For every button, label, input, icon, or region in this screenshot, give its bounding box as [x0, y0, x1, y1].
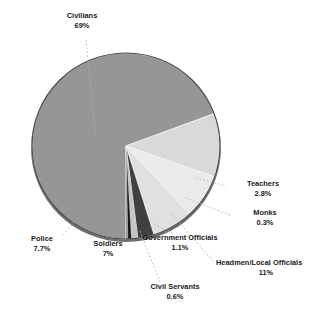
- slice-label-police-name: Police: [20, 234, 64, 244]
- slice-label-headmen-pct: 11%: [216, 268, 316, 278]
- slice-label-government-officials: Government Officials 1.1%: [134, 233, 226, 253]
- slice-label-soldiers: Soldiers 7%: [86, 239, 130, 259]
- slice-label-civilians: Civilians 69%: [46, 11, 118, 31]
- slice-label-civil-servants-pct: 0.6%: [136, 292, 214, 302]
- slice-label-headmen-name: Headmen/Local Officials: [216, 258, 324, 268]
- slice-label-police-pct: 7.7%: [20, 244, 64, 254]
- slice-label-monks-name: Monks: [236, 208, 294, 218]
- slice-label-police: Police 7.7%: [20, 234, 64, 254]
- slice-label-soldiers-pct: 7%: [86, 249, 130, 259]
- slice-label-civil-servants-name: Civil Servants: [136, 282, 214, 292]
- slice-label-government-name: Government Officials: [134, 233, 226, 243]
- slice-label-soldiers-name: Soldiers: [86, 239, 130, 249]
- slice-label-teachers-name: Teachers: [232, 179, 294, 189]
- slice-label-teachers-pct: 2.8%: [232, 189, 294, 199]
- slice-label-monks: Monks 0.3%: [236, 208, 294, 228]
- pie-chart-figure: Civilians 69% Teachers 2.8% Monks 0.3% H…: [0, 0, 325, 309]
- slice-label-civil-servants: Civil Servants 0.6%: [136, 282, 214, 302]
- slice-label-government-pct: 1.1%: [134, 243, 226, 253]
- slice-label-teachers: Teachers 2.8%: [232, 179, 294, 199]
- slice-label-civilians-name: Civilians: [46, 11, 118, 21]
- slice-label-monks-pct: 0.3%: [236, 218, 294, 228]
- slice-label-civilians-pct: 69%: [46, 21, 118, 31]
- pie-slice-group: [32, 53, 220, 239]
- slice-label-headmen-local-officials: Headmen/Local Officials 11%: [216, 258, 324, 278]
